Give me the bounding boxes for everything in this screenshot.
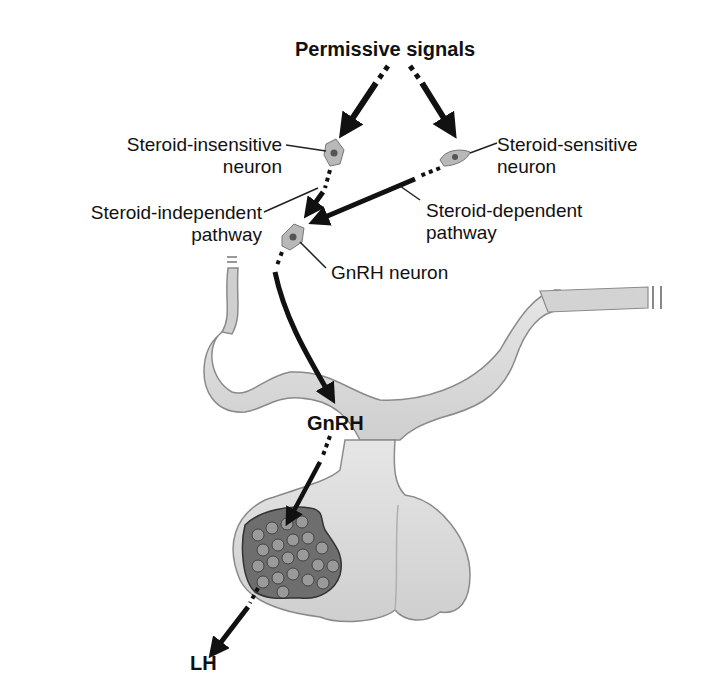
label-steroid-sensitive: Steroid-sensitive neuron	[497, 134, 637, 178]
hypothalamic-pituitary-diagram	[0, 0, 707, 686]
label-steroid-dependent-line1: Steroid-dependent	[426, 200, 582, 222]
steroid-sensitive-neuron-icon	[440, 150, 470, 166]
label-permissive-signals: Permissive signals	[295, 38, 475, 60]
label-steroid-independent-line2: pathway	[40, 224, 262, 246]
label-steroid-dependent: Steroid-dependent pathway	[426, 200, 582, 244]
label-steroid-insensitive-line1: Steroid-insensitive	[96, 134, 282, 156]
label-lh: LH	[190, 652, 217, 674]
label-steroid-insensitive-line2: neuron	[96, 156, 282, 178]
label-gnrh-neuron: GnRH neuron	[331, 262, 448, 284]
gnrh-neuron-icon	[282, 224, 304, 250]
label-steroid-independent-line1: Steroid-independent	[40, 202, 262, 224]
label-steroid-sensitive-line2: neuron	[497, 156, 637, 178]
steroid-insensitive-neuron-icon	[324, 139, 344, 166]
label-steroid-sensitive-line1: Steroid-sensitive	[497, 134, 637, 156]
pituitary-gland	[233, 440, 470, 621]
label-steroid-independent: Steroid-independent pathway	[40, 202, 262, 246]
label-steroid-insensitive: Steroid-insensitive neuron	[96, 134, 282, 178]
label-gnrh: GnRH	[307, 412, 364, 434]
label-steroid-dependent-line2: pathway	[426, 222, 582, 244]
hypothalamus-tissue	[204, 257, 661, 440]
